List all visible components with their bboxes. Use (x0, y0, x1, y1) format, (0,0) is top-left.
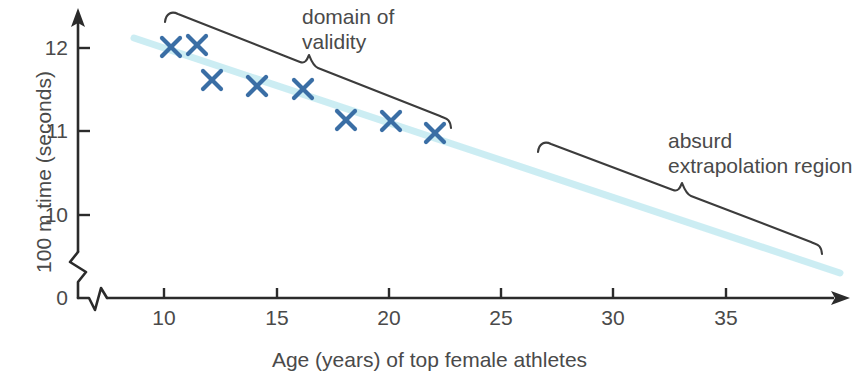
annotation-absurd-line2: extrapolation region (668, 153, 852, 178)
x-tick-label-15: 15 (265, 306, 288, 330)
x-axis-title: Age (years) of top female athletes (0, 348, 859, 372)
y-axis (70, 8, 90, 298)
x-tick-label-25: 25 (489, 306, 512, 330)
data-point-marker (188, 36, 206, 54)
x-tick-label-20: 20 (377, 306, 400, 330)
chart-figure: 10 15 20 25 30 35 12 11 10 0 Age (years)… (0, 0, 859, 384)
annotation-domain-of-validity-line2: validity (302, 29, 394, 54)
annotation-absurd-line1: absurd (668, 128, 852, 153)
y-axis-title: 100 m time (seconds) (32, 42, 56, 302)
x-tick-label-35: 35 (714, 306, 737, 330)
annotation-absurd-extrapolation-region: absurd extrapolation region (668, 128, 852, 178)
data-point-marker (203, 71, 221, 89)
annotation-domain-of-validity-line1: domain of (302, 4, 394, 29)
data-point-marker (337, 111, 355, 129)
x-tick-label-10: 10 (152, 306, 175, 330)
annotation-domain-of-validity: domain of validity (302, 4, 394, 54)
x-tick-label-30: 30 (601, 306, 624, 330)
